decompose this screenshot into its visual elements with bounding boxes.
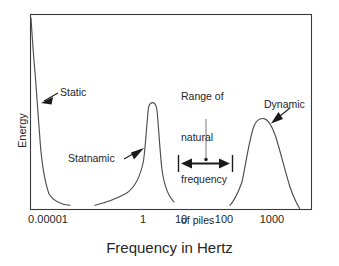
plot-frame xyxy=(31,15,312,210)
x-axis-title: Frequency in Hertz xyxy=(0,239,339,257)
x-tick-label-4: 1000 xyxy=(252,213,292,226)
annotation-statnamic-label: Statnamic xyxy=(68,152,115,164)
static-annotation-arrow xyxy=(41,93,58,105)
y-axis-title: Energy xyxy=(16,113,29,148)
annotation-range-of-piles: Range of natural frequency of piles xyxy=(181,62,227,256)
curve-dynamic xyxy=(230,118,300,208)
range-text-line-3: frequency xyxy=(181,173,227,187)
annotation-static-label: Static xyxy=(60,86,86,98)
curve-static xyxy=(31,18,70,205)
x-tick-label-1: 1 xyxy=(128,213,158,226)
range-text-line-1: Range of xyxy=(181,90,227,104)
statnamic-annotation-arrow xyxy=(124,148,144,160)
chart-figure: Energy 0.00001 1 10 100 1000 Frequency i… xyxy=(0,0,339,266)
annotation-dynamic-label: Dynamic xyxy=(264,98,305,110)
chart-plot-area xyxy=(0,0,339,266)
range-text-line-2: natural xyxy=(181,131,227,145)
x-tick-label-0: 0.00001 xyxy=(3,213,93,226)
range-text-line-4: of piles xyxy=(181,214,227,228)
